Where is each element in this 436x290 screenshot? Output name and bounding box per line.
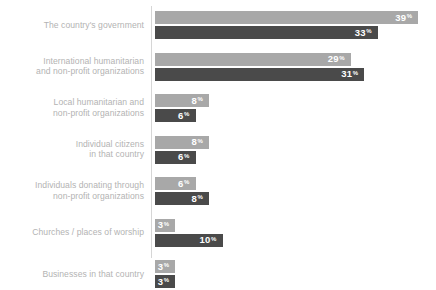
vertical-axis-line: [151, 6, 152, 258]
bar-series-dark: 3%: [155, 275, 175, 288]
bar-series-dark: 6%: [155, 109, 196, 122]
bar-value-label: 8%: [192, 194, 203, 204]
percent-sign: %: [339, 55, 345, 61]
percent-sign: %: [197, 96, 203, 102]
bar-value-label: 10%: [200, 235, 217, 245]
category-label: Local humanitarian and non-profit organi…: [2, 97, 144, 118]
bar-value-label: 33%: [355, 28, 372, 38]
category-label: Businesses in that country: [2, 269, 144, 280]
category-axis: The country's governmentInternational hu…: [0, 0, 144, 268]
bar-value-label: 31%: [341, 69, 358, 79]
bar-series-light: 6%: [155, 177, 196, 190]
bar-series-dark: 6%: [155, 151, 196, 164]
percent-sign: %: [184, 153, 190, 159]
percent-sign: %: [366, 28, 372, 34]
percent-sign: %: [211, 236, 217, 242]
category-label: Individuals donating through non-profit …: [2, 180, 144, 201]
bar-series-light: 3%: [155, 219, 175, 232]
bar-value-label: 39%: [395, 13, 412, 23]
category-label: International humanitarian and non-profi…: [2, 56, 144, 77]
bar-series-light: 3%: [155, 260, 175, 273]
percent-sign: %: [197, 138, 203, 144]
bar-value-label: 6%: [178, 152, 189, 162]
bar-value-label: 8%: [192, 137, 203, 147]
category-label: Churches / places of worship: [2, 227, 144, 238]
bar-series-dark: 8%: [155, 192, 209, 205]
bar-series-dark: 31%: [155, 68, 364, 81]
percent-sign: %: [164, 262, 170, 268]
bar-value-label: 8%: [192, 96, 203, 106]
bar-value-label: 6%: [178, 111, 189, 121]
percent-sign: %: [407, 13, 413, 19]
bar-value-label: 3%: [158, 277, 169, 287]
bar-group: 39%33%: [155, 11, 436, 41]
bar-value-label: 29%: [328, 54, 345, 64]
percent-sign: %: [353, 70, 359, 76]
bar-series-light: 29%: [155, 53, 351, 66]
plot-area: 39%33%29%31%8%6%8%6%6%8%3%10%3%3%: [155, 0, 436, 268]
bar-series-dark: 10%: [155, 234, 223, 247]
bar-series-light: 8%: [155, 94, 209, 107]
bar-group: 8%6%: [155, 136, 436, 166]
bar-series-light: 8%: [155, 136, 209, 149]
percent-sign: %: [197, 194, 203, 200]
bar-value-label: 6%: [178, 179, 189, 189]
percent-sign: %: [164, 277, 170, 283]
percent-sign: %: [184, 179, 190, 185]
bar-group: 3%3%: [155, 260, 436, 290]
bar-group: 29%31%: [155, 53, 436, 83]
category-label: The country's government: [2, 20, 144, 31]
percent-sign: %: [184, 111, 190, 117]
bar-series-dark: 33%: [155, 26, 378, 39]
bar-group: 8%6%: [155, 94, 436, 124]
bar-value-label: 3%: [158, 220, 169, 230]
bar-value-label: 3%: [158, 262, 169, 272]
category-label: Individual citizens in that country: [2, 139, 144, 160]
bar-series-light: 39%: [155, 11, 418, 24]
bar-group: 6%8%: [155, 177, 436, 207]
bar-group: 3%10%: [155, 219, 436, 249]
percent-sign: %: [164, 221, 170, 227]
